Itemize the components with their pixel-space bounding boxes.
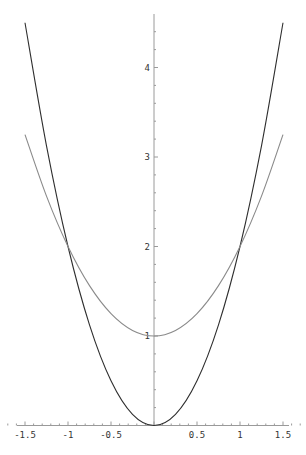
y-tick-label: 4 — [145, 63, 150, 73]
x-tick-label: -0.5 — [100, 430, 122, 440]
x-tick-label: 1 — [237, 430, 242, 440]
x-tick-label: 1.5 — [275, 430, 291, 440]
x-tick-label: -1 — [63, 430, 74, 440]
x-tick-label: -1.5 — [14, 430, 36, 440]
x-tick-label: 0.5 — [189, 430, 205, 440]
y-tick-label: 2 — [145, 242, 150, 252]
y-axis: 1234 — [145, 14, 158, 426]
plot-area: -1.5-1-0.50.511.5 1234 — [0, 0, 306, 455]
y-tick-label: 3 — [145, 152, 150, 162]
